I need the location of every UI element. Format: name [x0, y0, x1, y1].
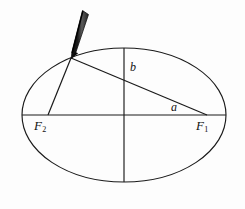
string-segment-to-f1 [71, 58, 207, 115]
label-focus-left-subscript: 2 [42, 125, 46, 134]
diagram-canvas [0, 0, 245, 209]
label-semi-major-axis: a [171, 101, 177, 113]
label-focus-left-letter: F [34, 118, 42, 133]
label-focus-right-letter: F [196, 118, 204, 133]
label-semi-minor-axis: b [130, 61, 136, 73]
label-focus-right: F1 [196, 119, 208, 134]
label-focus-right-subscript: 1 [204, 125, 208, 134]
label-focus-left: F2 [34, 119, 46, 134]
ellipse-diagram: F2 F1 b a [0, 0, 245, 209]
string-segment-to-f2 [48, 58, 71, 115]
pencil-icon [71, 11, 88, 59]
